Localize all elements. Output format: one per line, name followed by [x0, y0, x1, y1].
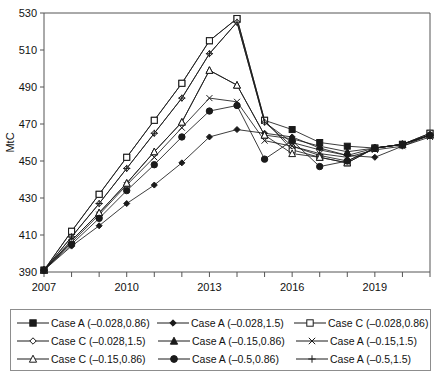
legend-item-label: Case A (–0.15,1.5)	[330, 335, 417, 347]
svg-text:390: 390	[19, 266, 37, 278]
legend-marker-icon	[155, 316, 191, 330]
series-4	[41, 67, 434, 273]
svg-text:2010: 2010	[114, 281, 138, 293]
legend-item-label: Case C (–0.028,0.86)	[328, 317, 428, 329]
svg-text:430: 430	[19, 192, 37, 204]
line-chart-svg: 390410430450470490510530MtC2007201020132…	[0, 0, 443, 300]
svg-text:410: 410	[19, 229, 37, 241]
legend-marker-icon	[156, 352, 192, 366]
series-8	[41, 19, 434, 274]
svg-text:530: 530	[19, 7, 37, 19]
legend-item: Case A (–0.028,1.5)	[155, 314, 292, 332]
svg-text:2013: 2013	[197, 281, 221, 293]
series-6	[41, 67, 434, 273]
legend-item: Case C (–0.15,0.86)	[15, 350, 156, 368]
legend-row: Case C (–0.15,0.86) Case A (–0.5,0.86) C…	[15, 350, 428, 368]
legend-marker-icon	[15, 352, 51, 366]
legend-item-label: Case A (–0.5,0.86)	[192, 353, 279, 365]
legend-item-label: Case C (–0.028,1.5)	[51, 335, 146, 347]
svg-text:2007: 2007	[32, 281, 56, 293]
series-5	[41, 95, 433, 273]
legend-marker-icon	[294, 334, 330, 348]
legend-item-label: Case A (–0.15,0.86)	[192, 335, 285, 347]
svg-text:510: 510	[19, 44, 37, 56]
legend-item-label: Case A (–0.5,1.5)	[330, 353, 411, 365]
legend-item-label: Case A (–0.028,0.86)	[51, 317, 150, 329]
legend-item: Case A (–0.5,1.5)	[294, 350, 428, 368]
legend-item: Case C (–0.028,0.86)	[292, 314, 428, 332]
legend-item: Case A (–0.5,0.86)	[156, 350, 294, 368]
chart-legend: Case A (–0.028,0.86) Case A (–0.028,1.5)…	[10, 309, 431, 371]
series-0	[41, 16, 433, 274]
chart-page: 390410430450470490510530MtC2007201020132…	[0, 0, 443, 381]
chart-plot-container: 390410430450470490510530MtC2007201020132…	[0, 0, 443, 300]
legend-item: Case A (–0.15,0.86)	[156, 332, 294, 350]
series-2	[41, 16, 433, 274]
svg-text:2019: 2019	[363, 281, 387, 293]
legend-marker-icon	[156, 334, 192, 348]
legend-marker-icon	[15, 334, 51, 348]
legend-item-label: Case C (–0.15,0.86)	[51, 353, 146, 365]
legend-item: Case A (–0.15,1.5)	[294, 332, 428, 350]
legend-item: Case A (–0.028,0.86)	[15, 314, 155, 332]
svg-text:490: 490	[19, 81, 37, 93]
legend-marker-icon	[294, 352, 330, 366]
legend-marker-icon	[292, 316, 328, 330]
legend-item: Case C (–0.028,1.5)	[15, 332, 156, 350]
legend-row: Case C (–0.028,1.5) Case A (–0.15,0.86) …	[15, 332, 428, 350]
legend-row: Case A (–0.028,0.86) Case A (–0.028,1.5)…	[15, 314, 428, 332]
svg-text:2016: 2016	[280, 281, 304, 293]
svg-text:450: 450	[19, 155, 37, 167]
legend-marker-icon	[15, 316, 51, 330]
legend-item-label: Case A (–0.028,1.5)	[191, 317, 284, 329]
svg-text:MtC: MtC	[4, 132, 16, 152]
svg-text:470: 470	[19, 118, 37, 130]
